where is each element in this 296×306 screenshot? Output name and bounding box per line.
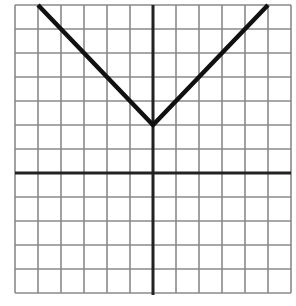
- axes: [15, 5, 291, 295]
- coordinate-grid-chart: [0, 0, 296, 306]
